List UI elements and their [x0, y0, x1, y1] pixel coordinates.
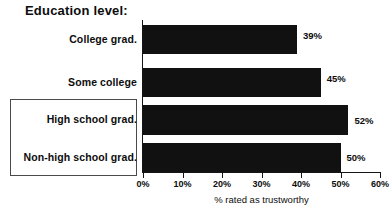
- bar-chart: Education level: College grad. Some coll…: [0, 0, 390, 215]
- x-axis-tick-label: 40%: [292, 179, 310, 189]
- x-axis-tick-label: 20%: [213, 179, 231, 189]
- x-axis-tick-label: 30%: [252, 179, 270, 189]
- x-axis-tick: [222, 173, 223, 178]
- bar-college-grad: [143, 25, 297, 54]
- category-label-non-high-school-grad: Non-high school grad.: [23, 151, 137, 163]
- plot-area: [143, 20, 380, 172]
- category-label-high-school-grad: High school grad.: [47, 113, 137, 125]
- bar-high-school-grad: [143, 105, 348, 135]
- x-axis-tick: [341, 173, 342, 178]
- x-axis-tick: [143, 173, 144, 178]
- bar-value-high-school-grad: 52%: [354, 115, 373, 126]
- category-label-college-grad: College grad.: [69, 33, 137, 45]
- bar-non-high-school-grad: [143, 143, 341, 172]
- x-axis-tick: [301, 173, 302, 178]
- x-axis-tick-label: 60%: [371, 179, 389, 189]
- x-axis-tick-label: 0%: [136, 179, 149, 189]
- x-axis-tick: [262, 173, 263, 178]
- bar-value-college-grad: 39%: [303, 30, 322, 41]
- x-axis-tick: [183, 173, 184, 178]
- bar-value-non-high-school-grad: 50%: [347, 152, 366, 163]
- x-axis-title: % rated as trustworthy: [143, 194, 380, 205]
- highlight-box-annotation: [10, 99, 137, 176]
- x-axis-tick-label: 50%: [331, 179, 349, 189]
- x-axis-tick: [380, 173, 381, 178]
- chart-title: Education level:: [25, 3, 128, 18]
- bar-value-some-college: 45%: [327, 73, 346, 84]
- bar-some-college: [143, 68, 321, 97]
- x-axis-tick-label: 10%: [173, 179, 191, 189]
- category-label-some-college: Some college: [68, 76, 137, 88]
